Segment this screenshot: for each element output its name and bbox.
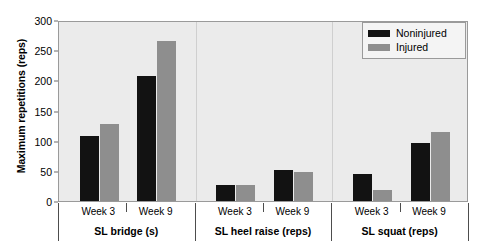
y-tick-label: 250 — [18, 45, 52, 57]
legend-item-injured: Injured — [368, 41, 460, 54]
y-tick-label: 300 — [18, 15, 52, 27]
bar-injured — [373, 190, 392, 201]
bar-injured — [157, 41, 176, 201]
legend-item-noninjured: Noninjured — [368, 27, 460, 40]
x-tick-label-week: Week 9 — [121, 206, 191, 217]
bar-noninjured — [353, 174, 372, 201]
x-axis-minor-tick — [400, 203, 401, 212]
bar-injured — [431, 132, 450, 201]
legend-swatch-noninjured — [368, 30, 390, 37]
bar-noninjured — [137, 76, 156, 201]
bar-noninjured — [80, 136, 99, 201]
y-tick-label: 0 — [18, 196, 52, 208]
x-tick-label-week: Week 9 — [394, 206, 464, 217]
x-axis-group-divider — [468, 203, 469, 241]
x-axis-group-divider — [195, 203, 196, 241]
group-separator — [196, 22, 197, 201]
bar-injured — [236, 185, 255, 201]
legend-swatch-injured — [368, 44, 390, 51]
x-axis-minor-tick — [126, 203, 127, 212]
x-axis-group-divider — [331, 203, 332, 241]
x-axis-group-divider — [58, 203, 59, 241]
bar-injured — [294, 172, 313, 201]
y-tick-label: 200 — [18, 75, 52, 87]
x-tick-label-week: Week 9 — [257, 206, 327, 217]
y-tick-label: 50 — [18, 166, 52, 178]
bar-noninjured — [411, 143, 430, 201]
y-tick-label: 150 — [18, 106, 52, 118]
legend: Noninjured Injured — [362, 22, 466, 59]
x-axis-minor-tick — [263, 203, 264, 212]
legend-label-noninjured: Noninjured — [396, 28, 447, 39]
bar-noninjured — [274, 170, 293, 201]
x-axis-group-label: SL squat (reps) — [320, 225, 480, 237]
y-tick-label: 100 — [18, 136, 52, 148]
group-separator — [332, 22, 333, 201]
legend-label-injured: Injured — [396, 42, 428, 53]
bar-noninjured — [216, 185, 235, 201]
bar-injured — [100, 124, 119, 201]
bar-chart: Maximum repetitions (reps) 0501001502002… — [0, 0, 487, 249]
